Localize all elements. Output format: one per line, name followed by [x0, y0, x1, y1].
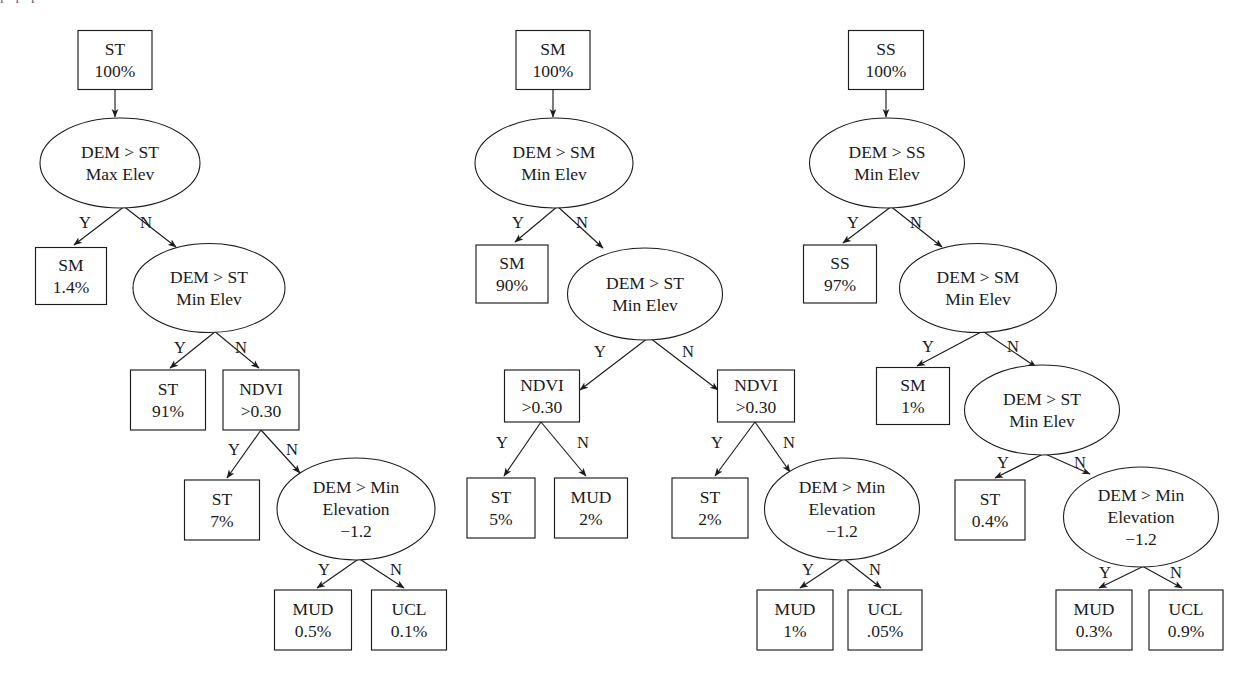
node-text-line-2: 0.1% — [391, 621, 427, 641]
edge-label-n: N — [235, 338, 247, 357]
edge-arrow — [580, 338, 648, 390]
edge-label-n: N — [390, 560, 402, 579]
node-text-line-2: >0.30 — [241, 401, 282, 421]
node-text-line-2: Min Elev — [854, 164, 920, 184]
node-text-line-1: MUD — [1074, 599, 1115, 619]
tree-edge: N — [122, 205, 176, 247]
edge-label-y: Y — [847, 213, 859, 232]
node-text-line-2: >0.30 — [736, 397, 777, 417]
node-text-line-1: SM — [58, 255, 84, 275]
edge-label-n: N — [783, 433, 795, 452]
class-node: NDVI>0.30 — [223, 370, 299, 430]
decision-trees-canvas: YNYNYNYNYNYNYNYNYNYNYNYNYN ST100%DEM > S… — [0, 0, 1250, 677]
node-text-line-2: 7% — [210, 511, 233, 531]
class-node: ST91% — [131, 370, 206, 430]
node-text-line-1: NDVI — [734, 375, 778, 395]
node-text-line-2: 97% — [824, 275, 856, 295]
node-text-line-1: ST — [212, 489, 233, 509]
tree-edge: N — [889, 205, 942, 247]
node-text-line-3: −1.2 — [826, 521, 858, 541]
node-text-line-2: >0.30 — [522, 397, 563, 417]
tree-edge: Y — [843, 206, 892, 243]
node-text-line-2: Min Elev — [1009, 411, 1075, 431]
class-node: SM1.4% — [36, 248, 107, 305]
node-text-line-2: 0.9% — [1168, 621, 1204, 641]
decision-tree-figure: p p p YNYNYNYNYNYNYNYNYNYNYNYNYN ST100%D… — [0, 0, 1250, 677]
class-node: ST100% — [78, 31, 152, 90]
tree-edge: Y — [580, 338, 648, 390]
node-text-line-2: Max Elev — [86, 164, 155, 184]
node-text-line-2: 2% — [579, 509, 602, 529]
edge-label-y: Y — [1099, 563, 1111, 582]
node-text-line-1: ST — [980, 489, 1001, 509]
node-text-line-1: ST — [105, 39, 126, 59]
tree-edge: Y — [512, 206, 558, 242]
tree-edge: Y — [711, 422, 755, 476]
node-text-line-1: UCL — [392, 599, 427, 619]
node-text-line-2: Min Elev — [945, 289, 1011, 309]
node-text-line-3: −1.2 — [1125, 529, 1157, 549]
edge-label-y: Y — [997, 453, 1009, 472]
tree-edge: N — [358, 558, 404, 588]
node-text-line-2: 100% — [95, 61, 136, 81]
node-ellipse — [133, 244, 285, 333]
tree-edge: Y — [170, 331, 216, 368]
class-node: UCL0.1% — [372, 590, 447, 650]
class-node: ST7% — [185, 480, 260, 540]
node-text-line-1: DEM > SM — [513, 142, 596, 162]
node-text-line-2: 1.4% — [53, 277, 89, 297]
class-node: MUD0.5% — [275, 590, 352, 650]
node-text-line-1: SM — [499, 253, 525, 273]
tree-edge: Y — [917, 331, 983, 366]
node-text-line-2: Min Elev — [521, 164, 587, 184]
edge-label-n: N — [576, 213, 588, 232]
node-text-line-2: 1% — [901, 397, 924, 417]
node-text-line-1: SM — [540, 39, 566, 59]
decision-node: DEM > MinElevation−1.2 — [277, 458, 435, 560]
node-text-line-1: DEM > ST — [170, 267, 248, 287]
edge-label-y: Y — [79, 213, 91, 232]
tree-edge: N — [213, 330, 259, 368]
node-text-line-2: .05% — [867, 621, 903, 641]
tree-edge: Y — [800, 558, 845, 588]
node-ellipse — [475, 118, 633, 208]
decision-node: DEM > SSMin Elev — [810, 118, 965, 208]
node-text-line-1: DEM > ST — [1003, 389, 1081, 409]
edge-label-y: Y — [711, 433, 723, 452]
tree-edge: Y — [317, 558, 360, 588]
tree-edge: N — [261, 430, 300, 473]
node-text-line-1: DEM > Min — [313, 477, 400, 497]
decision-node: DEM > SMMin Elev — [475, 118, 633, 208]
tree-edge: Y — [74, 206, 125, 245]
node-text-line-1: MUD — [775, 599, 816, 619]
tree-edge: N — [556, 205, 603, 248]
node-text-line-1: DEM > SS — [849, 142, 926, 162]
decision-node: DEM > SMMin Elev — [900, 244, 1057, 333]
node-text-line-1: SS — [830, 253, 849, 273]
tree-edge: Y — [227, 430, 261, 478]
tree-edge: Y — [995, 453, 1045, 478]
edge-label-y: Y — [318, 560, 330, 579]
node-text-line-1: DEM > ST — [81, 142, 159, 162]
edge-label-y: Y — [594, 342, 606, 361]
node-text-line-2: Elevation — [1107, 507, 1174, 527]
edge-label-y: Y — [802, 560, 814, 579]
node-text-line-1: DEM > Min — [1098, 485, 1185, 505]
node-ellipse — [810, 118, 965, 208]
decision-node: DEM > STMax Elev — [40, 118, 200, 208]
nodes-layer: ST100%DEM > STMax ElevSM1.4%DEM > STMin … — [36, 31, 1224, 651]
node-text-line-1: DEM > Min — [799, 477, 886, 497]
node-text-line-1: ST — [158, 379, 179, 399]
node-text-line-2: Elevation — [322, 499, 389, 519]
class-node: SS100% — [849, 31, 924, 90]
decision-node: DEM > STMin Elev — [965, 365, 1120, 455]
class-node: ST5% — [467, 478, 535, 538]
edge-label-n: N — [1170, 563, 1182, 582]
node-text-line-2: 5% — [489, 509, 512, 529]
node-text-line-1: UCL — [1169, 599, 1204, 619]
edge-label-n: N — [286, 440, 298, 459]
edge-label-y: Y — [922, 337, 934, 356]
node-text-line-2: Min Elev — [612, 295, 678, 315]
node-text-line-1: UCL — [868, 599, 903, 619]
class-node: MUD1% — [757, 590, 833, 650]
